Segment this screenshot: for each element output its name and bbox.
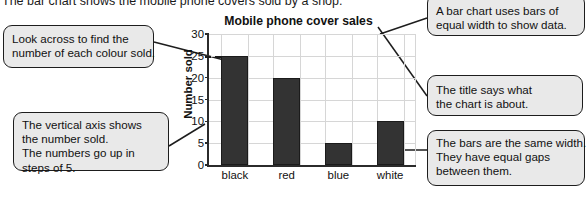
callout-look-across-line-1: Look across to find the — [12, 32, 146, 46]
x-axis-tick-label: white — [377, 169, 404, 181]
bar-chart: Mobile phone cover sales Number sold 051… — [176, 14, 421, 204]
plot-area: 051015202530blackredbluewhite — [207, 34, 416, 167]
gridline-vertical — [415, 34, 416, 165]
callout-title-info-line-2: the chart is about. — [436, 97, 575, 111]
y-axis-tick-label: 15 — [191, 94, 204, 106]
x-axis-tick-label: black — [222, 169, 249, 181]
bar-blue — [325, 143, 352, 165]
y-axis-tick-mark — [205, 142, 209, 144]
intro-sentence: The bar chart shows the mobile phone cov… — [2, 0, 342, 8]
bar-black — [221, 56, 248, 165]
y-axis-tick-label: 10 — [191, 115, 204, 127]
chart-title: Mobile phone cover sales — [176, 14, 421, 28]
callout-title-info: The title says what the chart is about. — [427, 75, 583, 116]
gridline-vertical — [404, 34, 405, 165]
callout-same-width-line-2: They have equal gaps — [436, 150, 577, 164]
callout-same-width-line-1: The bars are the same width. — [436, 136, 577, 150]
gridline-vertical — [300, 34, 301, 165]
gridline-horizontal — [209, 34, 416, 35]
dashed-reader-line — [205, 56, 221, 58]
y-axis-tick-label: 5 — [198, 137, 204, 149]
callout-look-across-line-2: number of each colour sold. — [12, 46, 146, 60]
y-axis-tick-label: 0 — [198, 159, 204, 171]
bar-white — [377, 121, 404, 165]
callout-vertical-axis-line-4: steps of 5. — [22, 161, 161, 175]
y-axis-tick-label: 30 — [191, 28, 204, 40]
callout-equal-bars: A bar chart uses bars of equal width to … — [427, 0, 585, 36]
callout-same-width: The bars are the same width. They have e… — [427, 130, 585, 186]
y-axis-tick-mark — [205, 164, 209, 166]
callout-vertical-axis-line-3: The numbers go up in — [22, 146, 161, 160]
gridline-vertical — [352, 34, 353, 165]
y-axis-tick-mark — [205, 33, 209, 35]
callout-equal-bars-line-1: A bar chart uses bars of — [436, 4, 577, 18]
worksheet-page: The bar chart shows the mobile phone cov… — [0, 0, 587, 204]
y-axis-tick-mark — [205, 77, 209, 79]
x-axis-tick-label: red — [278, 169, 294, 181]
callout-vertical-axis-line-1: The vertical axis shows — [22, 118, 161, 132]
y-axis-tick-mark — [205, 99, 209, 101]
gridline-vertical — [248, 34, 249, 165]
bar-red — [273, 78, 300, 165]
callout-look-across: Look across to find the number of each c… — [3, 25, 154, 68]
y-axis-tick-label: 25 — [191, 50, 204, 62]
y-axis-tick-label: 20 — [191, 72, 204, 84]
callout-same-width-line-3: between them. — [436, 164, 577, 178]
callout-vertical-axis: The vertical axis shows the number sold.… — [13, 112, 169, 171]
x-axis-tick-label: blue — [328, 169, 350, 181]
y-axis-tick-mark — [205, 121, 209, 123]
callout-vertical-axis-line-2: the number sold. — [22, 132, 161, 146]
callout-equal-bars-line-2: equal width to show data. — [436, 18, 577, 32]
callout-title-info-line-1: The title says what — [436, 83, 575, 97]
